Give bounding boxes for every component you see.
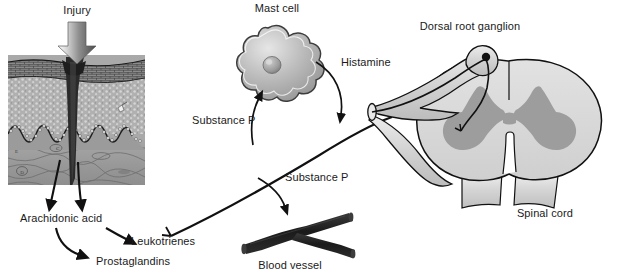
label-substance-p-upper: Substance P: [192, 115, 255, 126]
blood-vessel-icon: [241, 212, 355, 258]
label-injury: Injury: [63, 5, 91, 16]
label-blood-vessel: Blood vessel: [258, 260, 322, 271]
figure-neurogenic-inflammation: D: [0, 0, 618, 280]
svg-text:E: E: [15, 149, 18, 154]
diagram-canvas: D: [0, 0, 618, 280]
mast-cell-nucleus-icon: [263, 57, 281, 74]
arrow-to-leukotrienes: [106, 228, 128, 240]
label-mast-cell: Mast cell: [255, 3, 299, 14]
label-spinal-cord: Spinal cord: [517, 208, 573, 219]
label-dorsal-root-ganglion: Dorsal root ganglion: [420, 21, 520, 32]
nerve-fiber-icon: [162, 117, 392, 236]
skin-wound-histology-icon: D: [8, 55, 145, 189]
label-leukotrienes: Leukotrienes: [131, 236, 195, 247]
label-arachidonic-acid: Arachidonic acid: [20, 213, 102, 224]
label-histamine: Histamine: [341, 57, 391, 68]
svg-text:D: D: [20, 170, 24, 175]
label-substance-p-lower: Substance P: [285, 172, 348, 183]
arrow-to-prostaglandins: [56, 228, 80, 255]
ganglion-cell-body-icon: [482, 53, 490, 61]
label-prostaglandins: Prostaglandins: [96, 256, 170, 267]
mast-cell-icon: [237, 26, 324, 102]
